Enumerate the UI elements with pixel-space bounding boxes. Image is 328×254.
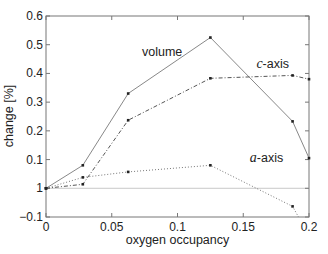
data-point-marker	[209, 36, 212, 39]
y-tick-label: 0.3	[26, 95, 43, 109]
x-tick-label: 0.2	[301, 220, 318, 234]
data-point-marker	[209, 164, 212, 167]
y-tick-label: 0.6	[26, 9, 43, 23]
y-tick-label: 0.5	[26, 38, 43, 52]
data-point-marker	[127, 92, 130, 95]
data-point-marker	[291, 205, 294, 208]
data-point-marker	[82, 183, 85, 186]
y-tick-label: 0.1	[26, 153, 43, 167]
y-tick-label: −0.1	[19, 210, 43, 224]
data-point-marker	[82, 164, 85, 167]
data-point-marker	[291, 74, 294, 77]
y-axis-label: change [%]	[2, 85, 16, 148]
data-point-marker	[308, 78, 311, 81]
x-tick-label: 0.1	[169, 220, 186, 234]
y-tick-label: 0.2	[26, 124, 43, 138]
x-axis-label: oxygen occupancy	[126, 233, 230, 247]
x-tick-label: 0.15	[232, 220, 256, 234]
line-chart: 00.050.10.150.2−0.110.10.20.30.40.50.6 v…	[0, 0, 328, 254]
data-point-marker	[308, 157, 311, 160]
data-point-marker	[291, 120, 294, 123]
data-point-marker	[127, 171, 130, 174]
data-point-marker	[127, 119, 130, 122]
y-tick-label: 1	[36, 181, 43, 195]
y-tick-label: 0.4	[26, 66, 43, 80]
data-point-marker	[82, 176, 85, 179]
x-tick-label: 0.05	[100, 220, 124, 234]
series-annotation: volume	[142, 45, 182, 59]
series-annotation: a-axis	[250, 150, 283, 165]
data-point-marker	[45, 187, 48, 190]
series-annotation: c-axis	[256, 56, 289, 71]
x-tick-label: 0	[43, 220, 50, 234]
data-point-marker	[209, 77, 212, 80]
